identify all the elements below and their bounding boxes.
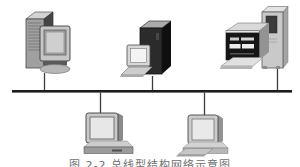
desktop-a-screen [90,117,114,139]
figure-caption: 图 2-2 总线型结构网络示意图 [0,159,300,167]
node-mainframe [220,7,288,70]
network-diagram: 图 2-2 总线型结构网络示意图 [0,0,300,167]
node-desktop-b [176,115,228,157]
node-desktop-a [84,113,133,154]
terminal-screen [131,49,147,63]
terminal [120,45,152,77]
desktop-b-screen [192,119,214,140]
desktop-b-base [183,142,228,148]
monitor [40,26,70,74]
node-server-terminal [120,21,171,77]
desktop-a-base [84,141,133,147]
node-tower-workstation [26,12,70,74]
diagram-canvas [0,0,300,167]
monitor-base [40,65,70,74]
bus-line [12,90,292,93]
